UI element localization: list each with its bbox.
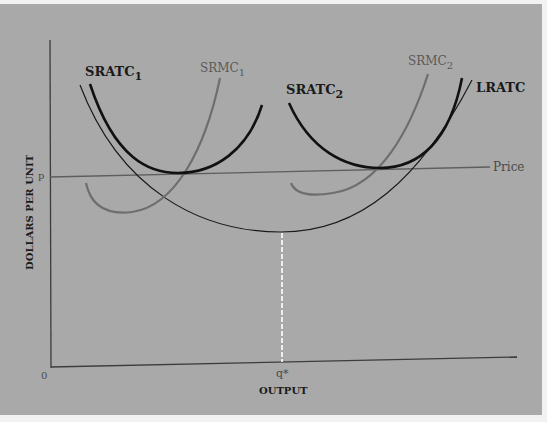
q-star-label: q*: [276, 367, 289, 380]
x-axis: [51, 357, 517, 367]
sratc2-label: SRATC2: [286, 82, 343, 101]
price-line: [50, 167, 490, 177]
lratc-label: LRATC: [476, 80, 525, 95]
srmc1-curve: [86, 78, 220, 213]
sratc1-curve: [90, 84, 262, 173]
y-axis-title: DOLLARS PER UNIT: [24, 154, 35, 270]
cost-curves-chart: SRATC1 SRMC1 SRATC2 SRMC2 LRATC Price p …: [0, 0, 547, 422]
x-axis-title: OUTPUT: [259, 385, 308, 396]
y-axis: [50, 40, 51, 368]
origin-label: 0: [41, 370, 47, 381]
p-tick-label: p: [38, 170, 44, 181]
srmc1-label: SRMC1: [200, 61, 245, 78]
price-label: Price: [493, 160, 524, 174]
srmc2-label: SRMC2: [408, 54, 453, 71]
lratc-curve: [80, 80, 472, 232]
sratc1-label: SRATC1: [85, 64, 142, 83]
